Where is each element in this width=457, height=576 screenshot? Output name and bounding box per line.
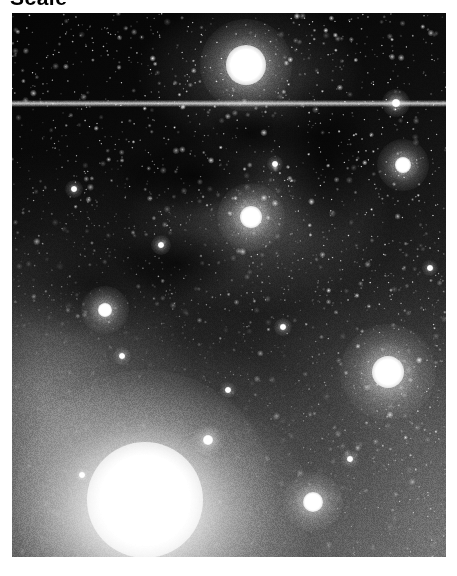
- faint-star-c-core: [280, 324, 286, 330]
- lower-left-bright-complex-core: [87, 442, 203, 557]
- bright-star-right-halo: [340, 324, 436, 420]
- sensor-grain-canvas: [12, 13, 446, 557]
- faint-star-a-halo: [192, 424, 224, 456]
- dust-lane-layer: [12, 13, 446, 557]
- faint-star-h-core: [272, 161, 278, 167]
- bright-star-left-halo: [81, 286, 129, 334]
- bright-star-upper-right-halo: [377, 139, 429, 191]
- faint-star-h-halo: [267, 156, 283, 172]
- starfield-canvas: [12, 13, 446, 557]
- faint-star-b-core: [158, 242, 164, 248]
- lower-left-bright-complex-halo: [15, 370, 275, 557]
- faint-star-g-halo: [422, 260, 438, 276]
- faint-star-e-halo: [341, 450, 359, 468]
- faint-star-d-core: [71, 186, 77, 192]
- faint-star-a-core: [203, 435, 213, 445]
- central-reflection-nebula-core: [240, 206, 262, 228]
- faint-star-c-halo: [274, 318, 292, 336]
- bright-star-upper-right-core: [395, 157, 411, 173]
- faint-star-i-halo: [220, 382, 236, 398]
- upper-nebula-knot-core: [226, 45, 266, 85]
- faint-star-d-halo: [65, 180, 83, 198]
- horizontal-scan-line-artifact: [12, 100, 446, 107]
- bright-star-lower-right-halo: [283, 472, 343, 532]
- faint-star-j-halo: [74, 467, 90, 483]
- bright-star-right-core: [372, 356, 404, 388]
- faint-star-f-halo: [113, 347, 131, 365]
- sky-background-layer: [12, 13, 446, 557]
- faint-star-b-halo: [151, 235, 171, 255]
- faint-star-g-core: [427, 265, 433, 271]
- faint-star-j-core: [79, 472, 85, 478]
- nebula-glow-layer: [12, 13, 446, 557]
- figure-container: Scale: [0, 0, 457, 576]
- upper-nebula-knot-halo: [200, 19, 292, 111]
- bright-star-left-core: [98, 303, 112, 317]
- faint-star-f-core: [119, 353, 125, 359]
- astronomical-image-plate[interactable]: [12, 13, 446, 557]
- faint-star-i-core: [225, 387, 231, 393]
- central-reflection-nebula-halo: [217, 183, 285, 251]
- bright-star-lower-right-core: [303, 492, 323, 512]
- figure-caption: Scale: [10, 0, 67, 9]
- faint-star-e-core: [347, 456, 353, 462]
